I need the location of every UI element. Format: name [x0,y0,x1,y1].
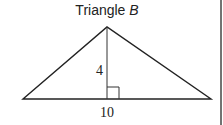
height-label: 4 [96,63,103,78]
triangle-outline [23,27,211,99]
right-angle-marker [107,87,119,99]
base-label: 10 [100,105,114,120]
triangle-diagram: 4 10 [0,0,223,125]
